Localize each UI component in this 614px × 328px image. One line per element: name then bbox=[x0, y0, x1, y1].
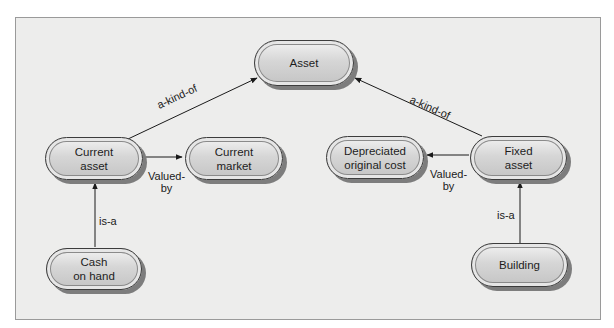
node-depreciated-original-cost[interactable]: Depreciated original cost bbox=[326, 136, 424, 179]
node-building-label: Building bbox=[499, 258, 540, 272]
node-asset[interactable]: Asset bbox=[254, 40, 354, 86]
node-fixed-asset[interactable]: Fixed asset bbox=[470, 136, 567, 180]
node-fixed-asset-label: Fixed asset bbox=[504, 144, 532, 172]
edge-label-is-a-right: is-a bbox=[497, 209, 515, 221]
node-asset-label: Asset bbox=[290, 56, 319, 70]
node-depreciated-original-cost-label: Depreciated original cost bbox=[344, 144, 406, 172]
node-cash-on-hand[interactable]: Cash on hand bbox=[46, 248, 142, 290]
node-current-market[interactable]: Current market bbox=[185, 137, 283, 180]
node-building[interactable]: Building bbox=[471, 243, 568, 287]
edge-label-valued-by-right: Valued- by bbox=[430, 168, 467, 192]
edge-label-valued-by-left: Valued- by bbox=[148, 170, 185, 194]
edge-label-is-a-left: is-a bbox=[99, 215, 117, 227]
node-current-market-label: Current market bbox=[215, 145, 253, 173]
node-current-asset[interactable]: Current asset bbox=[45, 137, 143, 180]
node-cash-on-hand-label: Cash on hand bbox=[73, 255, 115, 283]
node-current-asset-label: Current asset bbox=[75, 145, 113, 173]
